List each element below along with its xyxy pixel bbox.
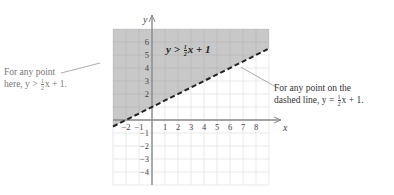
svg-text:3: 3 bbox=[145, 76, 149, 86]
right-callout-line1: For any point on the bbox=[274, 82, 364, 94]
right-callout-pre: dashed line, y = bbox=[274, 95, 334, 105]
svg-text:−1: −1 bbox=[140, 128, 149, 138]
svg-text:y: y bbox=[142, 14, 148, 25]
svg-text:6: 6 bbox=[145, 37, 149, 47]
svg-text:1: 1 bbox=[163, 122, 167, 132]
svg-text:−2: −2 bbox=[140, 141, 149, 151]
left-callout: For any point here, y > 12x + 1. bbox=[4, 66, 67, 91]
svg-text:8: 8 bbox=[254, 122, 258, 132]
fraction-num: 1 bbox=[184, 44, 187, 51]
left-callout-line1: For any point bbox=[4, 66, 67, 78]
svg-text:4: 4 bbox=[202, 122, 207, 132]
svg-text:3: 3 bbox=[189, 122, 193, 132]
fraction-den: 2 bbox=[41, 85, 44, 91]
svg-text:−4: −4 bbox=[140, 167, 150, 177]
svg-text:2: 2 bbox=[176, 122, 180, 132]
svg-text:x: x bbox=[282, 122, 288, 133]
fraction-num: 1 bbox=[41, 78, 44, 85]
right-callout-post: x + 1. bbox=[342, 95, 364, 105]
left-callout-line2: here, y > 12x + 1. bbox=[4, 78, 67, 91]
svg-text:5: 5 bbox=[215, 122, 219, 132]
svg-text:6: 6 bbox=[228, 122, 232, 132]
inequality-lhs: y > bbox=[166, 43, 180, 55]
fraction: 12 bbox=[184, 44, 187, 57]
svg-text:2: 2 bbox=[145, 89, 149, 99]
right-callout-line2: dashed line, y = 12x + 1. bbox=[274, 94, 364, 107]
svg-text:7: 7 bbox=[241, 122, 245, 132]
fraction-den: 2 bbox=[184, 51, 187, 57]
inequality-label: y > 12x + 1 bbox=[166, 43, 210, 57]
svg-text:−2: −2 bbox=[121, 122, 130, 132]
left-callout-post: x + 1. bbox=[45, 79, 67, 89]
svg-text:5: 5 bbox=[145, 50, 149, 60]
right-callout-leader bbox=[241, 67, 276, 87]
fraction-den: 2 bbox=[338, 101, 341, 107]
fraction: 12 bbox=[338, 94, 341, 107]
left-callout-pre: here, y > bbox=[4, 79, 38, 89]
svg-text:−3: −3 bbox=[140, 154, 149, 164]
fraction: 12 bbox=[41, 78, 44, 91]
inequality-rhs: x + 1 bbox=[188, 43, 211, 55]
fraction-num: 1 bbox=[338, 94, 341, 101]
right-callout: For any point on the dashed line, y = 12… bbox=[274, 82, 364, 107]
